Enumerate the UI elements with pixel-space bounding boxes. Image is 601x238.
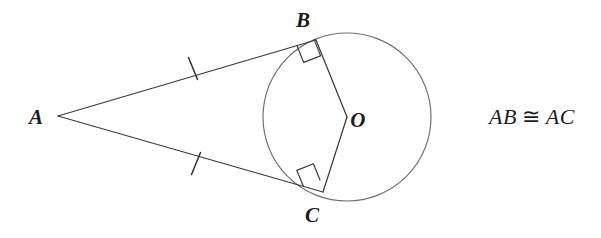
segment-ac bbox=[58, 116, 323, 192]
congruence-statement: AB≅AC bbox=[489, 106, 575, 128]
vertex-label-a: A bbox=[29, 107, 43, 128]
right-angle-marker-c bbox=[297, 164, 320, 187]
vertex-label-b: B bbox=[296, 10, 310, 31]
geometry-figure: A B C O AB≅AC bbox=[0, 0, 601, 238]
congruent-symbol: ≅ bbox=[517, 104, 546, 129]
statement-right-segment: AC bbox=[546, 104, 575, 129]
segment-ob bbox=[316, 40, 347, 117]
segment-ab bbox=[58, 40, 316, 116]
segment-oc bbox=[323, 117, 347, 192]
statement-left-segment: AB bbox=[489, 104, 517, 129]
vertex-label-c: C bbox=[305, 205, 319, 226]
vertex-label-o: O bbox=[350, 110, 365, 131]
